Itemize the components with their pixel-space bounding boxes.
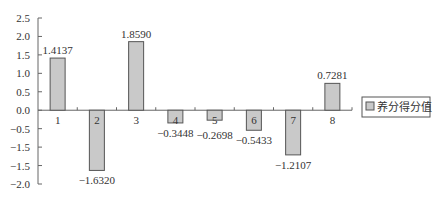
- y-tick-label: −1.5: [10, 141, 30, 153]
- data-label: −0.2698: [196, 129, 233, 141]
- data-label: 1.8590: [121, 28, 152, 40]
- y-tick-label: −1.5: [10, 160, 30, 172]
- y-tick-label: 0.0: [16, 104, 30, 116]
- x-category-label: 7: [290, 114, 296, 126]
- y-axis: 2.52.01.51.00.50.0−0.5−1.5−1.5−2.0: [10, 12, 42, 190]
- bar-3: [129, 42, 144, 111]
- y-tick-label: 2.0: [16, 30, 30, 42]
- legend-label: 养分得分值: [377, 100, 432, 114]
- x-category-label: 4: [173, 114, 179, 126]
- data-label: −0.3448: [157, 127, 194, 139]
- x-category-label: 3: [133, 114, 139, 126]
- x-axis: [38, 107, 352, 110]
- y-tick-label: 0.5: [16, 86, 30, 98]
- y-tick-label: −2.0: [10, 178, 30, 190]
- x-category-label: 6: [251, 114, 257, 126]
- y-tick-label: 1.5: [16, 49, 30, 61]
- y-tick-label: 2.5: [16, 12, 30, 24]
- data-label: −1.6320: [79, 174, 116, 186]
- x-category-label: 1: [55, 114, 61, 126]
- data-label: 0.7281: [317, 69, 347, 81]
- y-tick-label: 1.0: [16, 67, 30, 79]
- y-tick-label: −0.5: [10, 123, 30, 135]
- x-category-label: 2: [94, 114, 100, 126]
- bar-1: [50, 58, 65, 110]
- bar-8: [325, 83, 340, 110]
- data-label: 1.4137: [43, 44, 74, 56]
- legend-swatch: [366, 102, 374, 110]
- data-label: −0.5433: [236, 134, 273, 146]
- legend: 养分得分值: [362, 97, 432, 117]
- bar-chart: 2.52.01.51.00.50.0−0.5−1.5−1.5−2.0 11.41…: [0, 0, 443, 199]
- x-category-label: 8: [330, 114, 336, 126]
- x-category-label: 5: [212, 114, 218, 126]
- bars: 11.41372−1.632031.85904−0.34485−0.26986−…: [43, 28, 348, 187]
- data-label: −1.2107: [275, 159, 312, 171]
